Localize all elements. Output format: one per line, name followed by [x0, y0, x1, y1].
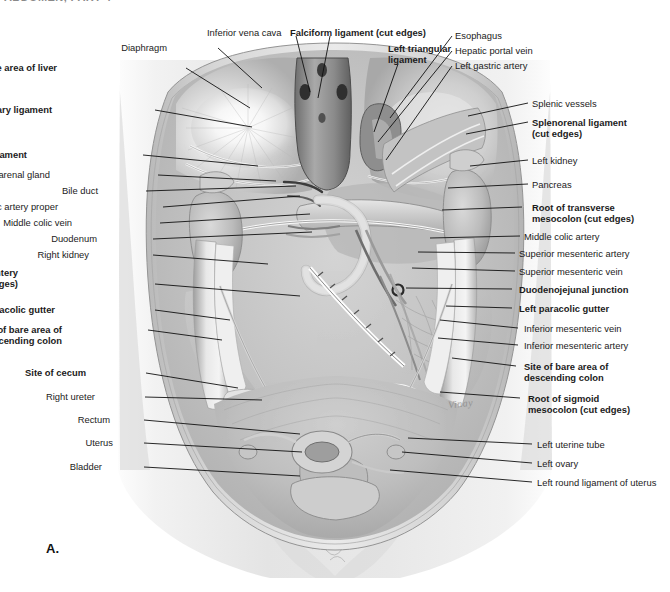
- label-rectum: Rectum: [78, 415, 110, 426]
- label-line-1: Duodenojejunal junction: [519, 284, 628, 295]
- label-line-2: of small intestine (cut edges): [0, 279, 18, 290]
- label-line-1: Rectum: [78, 414, 110, 425]
- figure-page: ABDOMEN, PART 4 A. Vinay Site of bare ar…: [0, 0, 670, 592]
- hepatic-vein-orifice-left: [337, 84, 348, 100]
- label-line-1: Falciform ligament (cut edges): [290, 27, 426, 38]
- label-uterus: Uterus: [85, 438, 113, 449]
- label-site-of-bare-area-asc-colon: Site of bare area ofascending colon: [0, 325, 62, 346]
- label-line-1: Bile duct: [62, 185, 98, 196]
- label-line-1: Right suprarenal gland: [0, 169, 50, 180]
- label-left-gastric-artery: Left gastric artery: [455, 61, 527, 72]
- label-line-1: Right paracolic gutter: [0, 304, 55, 315]
- label-inferior-mesenteric-vein: Inferior mesenteric vein: [524, 324, 621, 335]
- label-line-1: Esophagus: [455, 30, 502, 41]
- label-line-1: Left gastric artery: [455, 60, 527, 71]
- label-left-paracolic-gutter: Left paracolic gutter: [519, 304, 609, 315]
- label-left-ovary: Left ovary: [537, 459, 578, 470]
- label-left-uterine-tube: Left uterine tube: [537, 440, 605, 451]
- label-line-2: descending colon: [524, 373, 608, 384]
- label-duodenum: Duodenum: [51, 234, 97, 245]
- label-right-suprarenal-gland: Right suprarenal gland: [0, 170, 50, 181]
- label-line-1: Inferior vena cava: [207, 27, 282, 38]
- label-left-round-ligament-uterus: Left round ligament of uterus: [537, 478, 656, 489]
- label-splenic-vessels: Splenic vessels: [532, 99, 597, 110]
- label-line-1: Duodenum: [51, 233, 97, 244]
- label-line-1: Root of sigmoid: [528, 393, 599, 404]
- label-line-1: Left kidney: [532, 155, 577, 166]
- label-line-1: Left uterine tube: [537, 439, 605, 450]
- label-line-2: mesocolon (cut edges): [528, 405, 630, 416]
- label-line-1: Right triangular ligament: [0, 149, 27, 160]
- label-hepatic-portal-vein: Hepatic portal vein: [455, 46, 533, 57]
- label-line-1: Left ovary: [537, 458, 578, 469]
- uterine-cavity: [305, 442, 339, 462]
- label-falciform-ligament: Falciform ligament (cut edges): [290, 28, 426, 39]
- label-line-1: Site of cecum: [25, 367, 86, 378]
- label-line-1: Right ureter: [46, 391, 95, 402]
- label-line-2: ligament: [388, 55, 451, 66]
- label-inferior-mesenteric-artery: Inferior mesenteric artery: [524, 341, 628, 352]
- label-line-1: Hepatic artery proper: [0, 201, 58, 212]
- label-splenorenal-ligament: Splenorenal ligament(cut edges): [532, 118, 627, 139]
- label-line-1: Splenic vessels: [532, 98, 597, 109]
- label-coronary-ligament: Coronary ligament: [0, 105, 52, 116]
- figure-letter: A.: [46, 541, 59, 556]
- label-middle-colic-artery: Middle colic artery: [524, 232, 600, 243]
- label-line-1: Left triangular: [388, 43, 451, 54]
- label-site-of-cecum: Site of cecum: [25, 368, 86, 379]
- label-line-1: Hepatic portal vein: [455, 45, 533, 56]
- label-pancreas: Pancreas: [532, 180, 572, 191]
- label-line-1: Pancreas: [532, 179, 572, 190]
- label-right-triangular-ligament: Right triangular ligament: [0, 150, 27, 161]
- label-line-1: Uterus: [85, 437, 113, 448]
- label-bile-duct: Bile duct: [62, 186, 98, 197]
- label-right-paracolic-gutter: Right paracolic gutter: [0, 305, 55, 316]
- label-line-1: Left paracolic gutter: [519, 303, 609, 314]
- label-line-1: Site of bare area of liver: [0, 62, 57, 73]
- label-line-1: Inferior mesenteric vein: [524, 323, 621, 334]
- label-right-kidney: Right kidney: [37, 250, 89, 261]
- label-line-1: Coronary ligament: [0, 104, 52, 115]
- label-superior-mesenteric-vein: Superior mesenteric vein: [519, 267, 623, 278]
- label-left-kidney: Left kidney: [532, 156, 577, 167]
- label-inferior-vena-cava: Inferior vena cava: [207, 28, 282, 39]
- label-hepatic-artery-proper: Hepatic artery proper: [0, 202, 58, 213]
- label-root-of-sigmoid-mesocolon: Root of sigmoidmesocolon (cut edges): [528, 394, 630, 415]
- right-ovary: [239, 445, 257, 459]
- label-line-1: Diaphragm: [121, 42, 167, 53]
- label-esophagus: Esophagus: [455, 31, 502, 42]
- label-line-2: ascending colon: [0, 336, 62, 347]
- label-line-2: (cut edges): [532, 129, 627, 140]
- label-line-1: Superior mesenteric vein: [519, 266, 623, 277]
- label-site-of-bare-area-of-liver: Site of bare area of liver: [0, 63, 57, 74]
- label-superior-mesenteric-artery: Superior mesenteric artery: [519, 249, 629, 260]
- label-bladder: Bladder: [70, 462, 102, 473]
- label-duodenojejunal-junction: Duodenojejunal junction: [519, 285, 628, 296]
- label-line-1: Right kidney: [37, 249, 89, 260]
- label-right-ureter: Right ureter: [46, 392, 95, 403]
- label-line-1: Superior mesenteric artery: [519, 248, 629, 259]
- label-line-1: Root of transverse: [532, 202, 615, 213]
- hepatic-vein-orifice-middle: [317, 63, 327, 77]
- label-line-1: Root of mesentery: [0, 267, 18, 278]
- label-line-1: Middle colic vein: [3, 217, 72, 228]
- inferior-vena-cava: [295, 58, 351, 190]
- label-line-1: Middle colic artery: [524, 231, 600, 242]
- label-line-1: Inferior mesenteric artery: [524, 340, 628, 351]
- label-line-1: Splenorenal ligament: [532, 117, 627, 128]
- label-middle-colic-vein: Middle colic vein: [3, 218, 72, 229]
- label-left-triangular-ligament: Left triangularligament: [388, 44, 451, 65]
- label-line-1: Left round ligament of uterus: [537, 477, 656, 488]
- label-line-1: Site of bare area of: [0, 324, 62, 335]
- anatomical-illustration: [0, 0, 670, 592]
- label-line-2: mesocolon (cut edges): [532, 214, 634, 225]
- label-site-of-bare-area-desc-colon: Site of bare area ofdescending colon: [524, 362, 608, 383]
- running-header: ABDOMEN, PART 4: [4, 0, 111, 3]
- label-line-1: Site of bare area of: [524, 361, 608, 372]
- label-root-of-mesentery: Root of mesenteryof small intestine (cut…: [0, 268, 18, 289]
- label-root-of-transverse-mesocolon: Root of transversemesocolon (cut edges): [532, 203, 634, 224]
- label-line-1: Bladder: [70, 461, 102, 472]
- label-diaphragm: Diaphragm: [121, 43, 167, 54]
